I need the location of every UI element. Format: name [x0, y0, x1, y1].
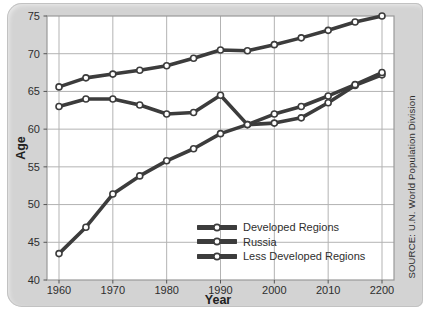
data-point-marker: [352, 82, 358, 88]
data-point-marker: [56, 251, 62, 257]
x-tick-label: 1960: [47, 284, 71, 296]
data-point-marker: [191, 146, 197, 152]
x-tick-label: 2010: [316, 284, 340, 296]
x-axis-title: Year: [205, 293, 231, 307]
data-point-marker: [325, 93, 331, 99]
data-point-marker: [110, 191, 116, 197]
data-point-marker: [244, 122, 250, 128]
data-point-marker: [271, 111, 277, 117]
legend-label: Russia: [243, 236, 277, 248]
data-point-marker: [271, 120, 277, 126]
data-point-marker: [56, 104, 62, 110]
legend-item-developed-regions: Developed Regions: [197, 221, 365, 233]
data-point-marker: [110, 96, 116, 102]
data-point-marker: [325, 100, 331, 106]
x-tick-label: 2200: [370, 284, 394, 296]
data-point-marker: [137, 67, 143, 73]
data-point-marker: [83, 96, 89, 102]
data-point-marker: [379, 70, 385, 76]
data-point-marker: [271, 42, 277, 48]
y-tick-label: 60: [28, 123, 40, 135]
legend-item-russia: Russia: [197, 236, 365, 248]
y-axis-title: Age: [14, 136, 28, 160]
legend-line-marker-icon: [197, 222, 237, 233]
line-chart: 1960197019801990200020102200404550556065…: [0, 0, 423, 314]
x-tick-label: 2000: [262, 284, 286, 296]
y-tick-label: 55: [28, 161, 40, 173]
data-point-marker: [83, 75, 89, 81]
data-point-marker: [352, 19, 358, 25]
data-point-marker: [137, 102, 143, 108]
y-tick-label: 65: [28, 85, 40, 97]
data-point-marker: [164, 111, 170, 117]
data-point-marker: [244, 48, 250, 54]
data-point-marker: [325, 27, 331, 33]
data-point-marker: [164, 63, 170, 69]
data-point-marker: [218, 131, 224, 137]
data-point-marker: [137, 173, 143, 179]
data-point-marker: [191, 55, 197, 61]
data-point-marker: [298, 104, 304, 110]
data-point-marker: [298, 35, 304, 41]
legend-line-marker-icon: [197, 236, 237, 247]
data-point-marker: [83, 224, 89, 230]
y-tick-label: 70: [28, 48, 40, 60]
data-point-marker: [110, 71, 116, 77]
legend: Developed Regions Russia Less Developed …: [197, 221, 365, 262]
data-point-marker: [218, 92, 224, 98]
data-point-marker: [379, 13, 385, 19]
y-tick-label: 45: [28, 236, 40, 248]
y-tick-label: 50: [28, 198, 40, 210]
source-credit: SOURCE: U.N. World Population Division: [406, 95, 417, 278]
data-point-marker: [56, 84, 62, 90]
data-point-marker: [191, 110, 197, 116]
legend-label: Less Developed Regions: [243, 250, 365, 262]
legend-line-marker-icon: [197, 251, 237, 262]
y-tick-label: 40: [28, 274, 40, 286]
x-tick-label: 1980: [154, 284, 178, 296]
data-point-marker: [218, 47, 224, 53]
legend-item-less-developed-regions: Less Developed Regions: [197, 250, 365, 262]
x-tick-label: 1970: [101, 284, 125, 296]
legend-label: Developed Regions: [243, 221, 339, 233]
y-tick-label: 75: [28, 10, 40, 22]
data-point-marker: [164, 158, 170, 164]
data-point-marker: [298, 115, 304, 121]
